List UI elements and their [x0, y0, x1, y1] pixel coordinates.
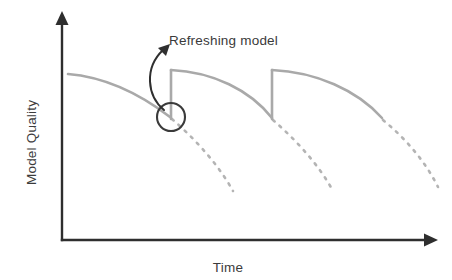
x-axis: [62, 234, 438, 247]
decay-dashed-continuation-3: [383, 120, 438, 187]
decay-curve-segment-3: [272, 70, 382, 118]
diagram-canvas: Refreshing model Model Quality Time: [0, 0, 452, 280]
decay-dashed-continuation-2: [273, 120, 333, 191]
decay-dashed-continuation-1: [172, 119, 233, 191]
callout-arrow-curve: [150, 50, 164, 110]
y-axis: [56, 11, 69, 240]
decay-curve-segment-2: [171, 70, 272, 118]
y-axis-label: Model Quality: [24, 100, 39, 185]
y-axis-arrowhead-icon: [56, 11, 69, 25]
x-axis-arrowhead-icon: [424, 234, 438, 247]
decay-curve-segment-1: [68, 74, 170, 117]
x-axis-label: Time: [213, 260, 243, 275]
annotation-label-refreshing-model: Refreshing model: [169, 33, 278, 48]
model-quality-decay-chart: Refreshing model Model Quality Time: [0, 0, 452, 280]
